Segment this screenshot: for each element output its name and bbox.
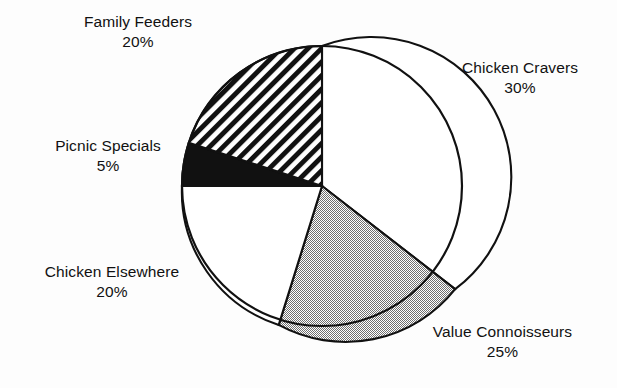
pie-label-chicken-elsewhere-name: Chicken Elsewhere [7, 262, 217, 282]
pie-label-value-connoisseurs: Value Connoisseurs 25% [390, 322, 615, 362]
pie-label-picnic-specials-name: Picnic Specials [13, 136, 203, 156]
pie-label-family-feeders-value: 20% [43, 32, 233, 52]
pie-label-value-connoisseurs-name: Value Connoisseurs [390, 322, 615, 342]
pie-label-value-connoisseurs-value: 25% [390, 342, 615, 362]
pie-label-family-feeders: Family Feeders 20% [43, 12, 233, 52]
pie-label-chicken-cravers-value: 30% [430, 78, 610, 98]
pie-label-chicken-cravers-name: Chicken Cravers [430, 58, 610, 78]
pie-chart-figure: Family Feeders 20% Chicken Cravers 30% P… [0, 0, 617, 388]
pie-label-chicken-elsewhere: Chicken Elsewhere 20% [7, 262, 217, 302]
pie-label-chicken-cravers: Chicken Cravers 30% [430, 58, 610, 98]
pie-label-chicken-elsewhere-value: 20% [7, 282, 217, 302]
pie-label-family-feeders-name: Family Feeders [43, 12, 233, 32]
pie-label-picnic-specials-value: 5% [13, 156, 203, 176]
pie-label-picnic-specials: Picnic Specials 5% [13, 136, 203, 176]
